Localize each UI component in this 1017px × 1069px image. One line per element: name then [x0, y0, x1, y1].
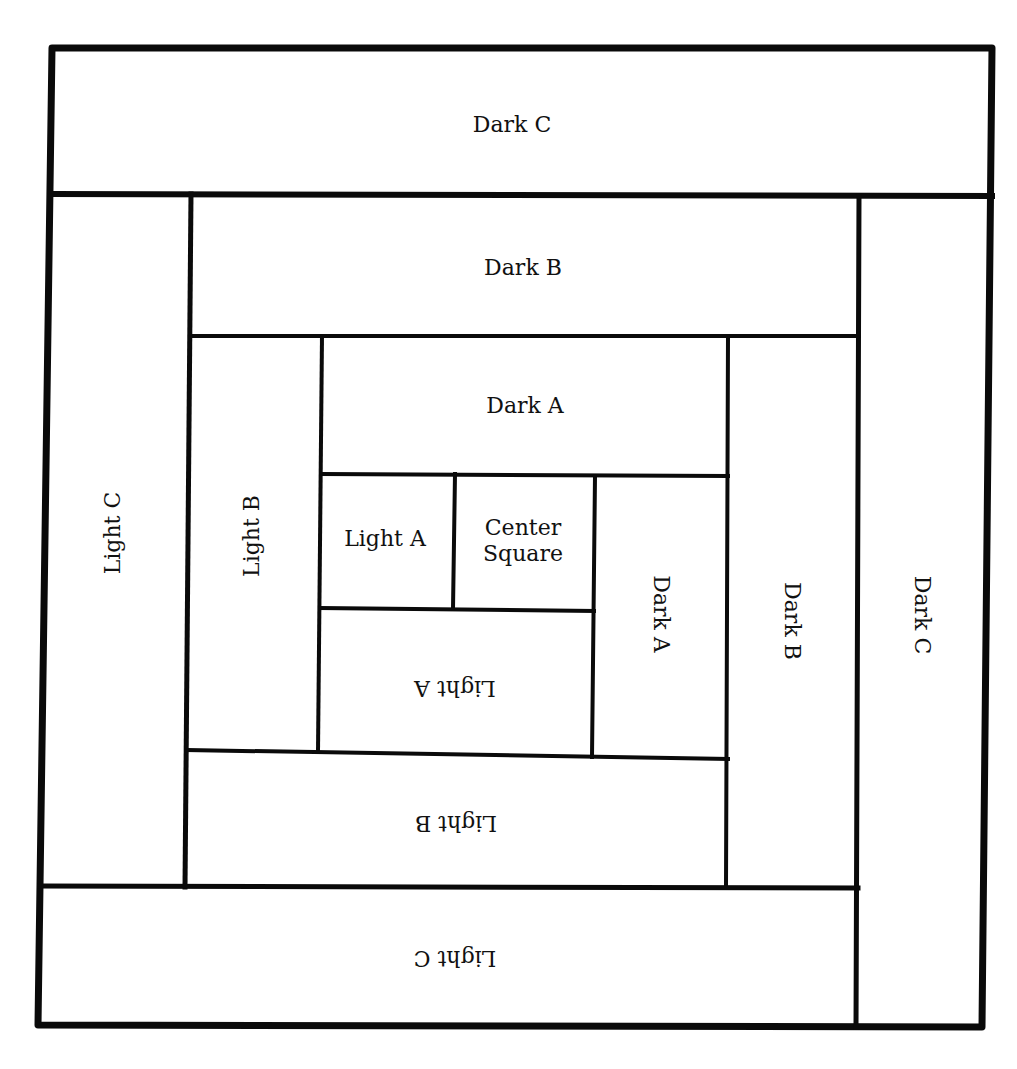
piece-light-a-bottom: Light A [414, 675, 496, 700]
label-light-b-bottom: Light B [415, 810, 497, 835]
seam-line [40, 886, 858, 888]
piece-light-c-bottom: Light C [414, 945, 497, 970]
label-center-line2: Square [483, 541, 563, 566]
piece-light-a-left: Light A [344, 526, 426, 551]
label-light-b-left: Light B [239, 495, 264, 577]
label-dark-c-top: Dark C [473, 112, 551, 137]
label-light-a-bottom: Light A [414, 675, 496, 700]
piece-dark-c-top: Dark C [473, 112, 551, 137]
label-dark-a-right: Dark A [648, 575, 673, 652]
seam-line [453, 474, 455, 609]
piece-light-c-left: Light C [100, 492, 125, 575]
label-dark-b-right: Dark B [779, 582, 804, 660]
piece-dark-b-top: Dark B [484, 255, 562, 280]
piece-dark-b-right: Dark B [779, 582, 804, 660]
piece-dark-a-right: Dark A [648, 575, 673, 652]
label-dark-b-top: Dark B [484, 255, 562, 280]
label-light-a-left: Light A [344, 526, 426, 551]
label-light-c-left: Light C [100, 492, 125, 575]
piece-dark-a-top: Dark A [486, 393, 563, 418]
piece-light-b-left: Light B [239, 495, 264, 577]
label-dark-a-top: Dark A [486, 393, 563, 418]
piece-light-b-bottom: Light B [415, 810, 497, 835]
seam-line [726, 336, 728, 888]
label-center-line1: Center [485, 515, 561, 540]
seam-line [856, 196, 859, 1027]
label-light-c-bottom: Light C [414, 945, 497, 970]
piece-dark-c-right: Dark C [909, 576, 934, 654]
label-dark-c-right: Dark C [909, 576, 934, 654]
piece-center-square: Center Square [483, 515, 563, 568]
label-center-square: Center Square [483, 515, 563, 568]
seam-line [322, 474, 728, 476]
